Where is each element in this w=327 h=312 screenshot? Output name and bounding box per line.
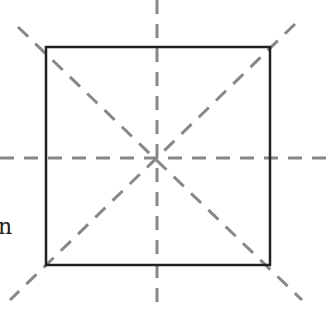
symmetry-diagram [0,0,327,312]
diagonal-symmetry-line-main [18,27,302,300]
diagonal-symmetry-line-anti [10,24,295,300]
text-fragment: n [0,216,12,238]
